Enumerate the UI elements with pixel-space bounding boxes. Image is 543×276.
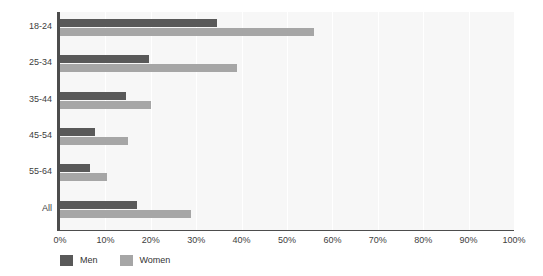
bar-women-55-64	[60, 173, 107, 181]
legend-item-men[interactable]: Men	[60, 255, 98, 266]
bar-women-18-24	[60, 28, 314, 36]
bar-women-all	[60, 210, 191, 218]
y-axis-line	[57, 12, 60, 230]
y-axis-labels: 18-2425-3435-4445-5455-64All	[0, 12, 52, 230]
bar-men-35-44	[60, 92, 126, 100]
bar-men-18-24	[60, 19, 217, 27]
legend-label: Men	[80, 255, 98, 266]
bar-men-55-64	[60, 164, 90, 172]
bar-group	[60, 85, 514, 121]
legend-swatch-icon	[60, 255, 73, 266]
y-axis-tick-label: 55-64	[4, 166, 52, 177]
x-axis-line	[57, 230, 514, 231]
bar-men-45-54	[60, 128, 95, 136]
legend-label: Women	[140, 255, 171, 266]
y-axis-tick-label: 18-24	[4, 21, 52, 32]
bar-group	[60, 157, 514, 193]
x-axis-tick-label: 80%	[403, 234, 443, 246]
x-axis-labels: 0%10%20%30%40%50%60%70%80%90%100%	[0, 234, 543, 248]
bar-men-all	[60, 201, 137, 209]
x-axis-tick-label: 50%	[267, 234, 307, 246]
bar-group	[60, 12, 514, 48]
bar-group	[60, 121, 514, 157]
bar-women-35-44	[60, 101, 151, 109]
x-axis-tick-label: 90%	[449, 234, 489, 246]
x-axis-tick-label: 40%	[222, 234, 262, 246]
x-axis-tick-label: 0%	[40, 234, 80, 246]
bar-chart: 18-2425-3435-4445-5455-64All 0%10%20%30%…	[0, 0, 543, 276]
x-axis-tick-label: 20%	[131, 234, 171, 246]
x-axis-tick-label: 100%	[494, 234, 534, 246]
x-axis-tick-label: 60%	[312, 234, 352, 246]
y-axis-tick-label: All	[4, 203, 52, 214]
bar-men-25-34	[60, 55, 149, 63]
legend: MenWomen	[60, 253, 192, 267]
y-axis-tick-label: 35-44	[4, 94, 52, 105]
x-axis-tick-label: 70%	[358, 234, 398, 246]
legend-item-women[interactable]: Women	[120, 255, 171, 266]
x-axis-tick-label: 30%	[176, 234, 216, 246]
bar-women-25-34	[60, 64, 237, 72]
bar-group	[60, 48, 514, 84]
bar-women-45-54	[60, 137, 128, 145]
x-axis-tick-label: 10%	[85, 234, 125, 246]
legend-swatch-icon	[120, 255, 133, 266]
bar-group	[60, 194, 514, 230]
gridline	[514, 12, 515, 230]
y-axis-tick-label: 45-54	[4, 130, 52, 141]
plot-area	[60, 12, 514, 230]
y-axis-tick-label: 25-34	[4, 57, 52, 68]
